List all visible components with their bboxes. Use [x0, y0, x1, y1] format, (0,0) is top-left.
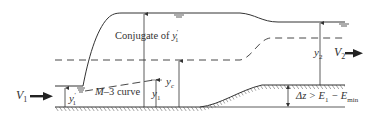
conjugate-label: Conjugate of y'1 [115, 29, 179, 44]
hydraulic-jump-diagram: V1 y'1 M–3 curve y1 yc Conjugate of y'1 … [0, 0, 378, 120]
yc-label: yc [166, 76, 174, 90]
v2-arrow-icon [345, 49, 363, 57]
critical-depth-line [55, 38, 345, 60]
water-level-mark-top [174, 15, 184, 17]
v2-label: V2 [334, 46, 345, 61]
water-surface [55, 13, 345, 86]
v1-label: V1 [16, 89, 27, 104]
delta-z-label: Δz > E1 − Emin [296, 91, 358, 104]
v1-arrow-icon [30, 92, 53, 100]
water-level-mark-left [77, 88, 85, 92]
water-level-mark-right [339, 24, 349, 26]
y1-label: y1 [152, 88, 160, 102]
m3-curve-label: M–3 curve [95, 87, 140, 98]
y1-prime-label: y'1 [69, 92, 76, 107]
y2-label: y2 [314, 47, 322, 61]
